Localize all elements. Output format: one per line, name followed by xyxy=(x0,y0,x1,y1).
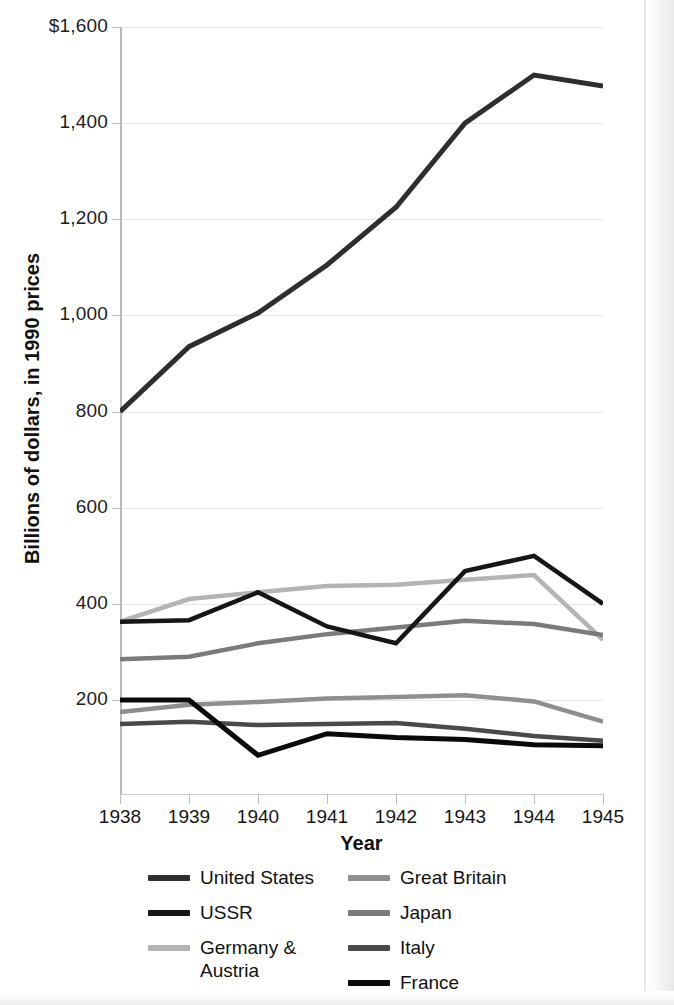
legend-item-label: United States xyxy=(200,866,314,889)
x-axis-tick-label: 1938 xyxy=(99,806,141,828)
series-line-france xyxy=(120,700,603,755)
x-axis-line xyxy=(120,794,603,795)
scan-edge-line xyxy=(644,0,646,1005)
x-axis-tick xyxy=(120,794,121,804)
x-axis-tick xyxy=(603,794,604,804)
x-axis-tick xyxy=(258,794,259,804)
x-axis-tick xyxy=(396,794,397,804)
plot-area xyxy=(120,27,603,794)
legend-item-label: USSR xyxy=(200,901,253,924)
y-axis-title: Billions of dollars, in 1990 prices xyxy=(21,149,44,669)
x-axis-title: Year xyxy=(120,832,603,855)
series-line-japan xyxy=(120,621,603,659)
x-axis-tick-label: 1945 xyxy=(582,806,624,828)
y-axis-tick xyxy=(112,604,120,605)
legend-item: United States xyxy=(148,866,348,892)
x-axis-tick-label: 1939 xyxy=(168,806,210,828)
x-axis-tick xyxy=(189,794,190,804)
y-axis-tick xyxy=(112,123,120,124)
legend-swatch-icon xyxy=(148,875,190,881)
y-axis-tick-label: 1,400 xyxy=(59,111,108,133)
x-axis-tick-label: 1941 xyxy=(306,806,348,828)
y-axis-tick xyxy=(112,412,120,413)
y-axis-tick-label: 200 xyxy=(76,688,108,710)
legend-item-label: Germany & Austria xyxy=(200,936,296,982)
x-axis-tick-label: 1943 xyxy=(444,806,486,828)
legend-swatch-icon xyxy=(348,910,390,916)
y-axis-tick xyxy=(112,508,120,509)
legend-column-left: United StatesUSSRGermany & Austria xyxy=(148,866,348,991)
legend-item: Germany & Austria xyxy=(148,936,348,982)
legend-item: Japan xyxy=(348,901,548,927)
x-axis-tick-label: 1940 xyxy=(237,806,279,828)
legend-item-label: Great Britain xyxy=(400,866,507,889)
x-axis-tick xyxy=(327,794,328,804)
legend-item: Great Britain xyxy=(348,866,548,892)
page-canvas: $1,6001,4001,2001,000800600400200 193819… xyxy=(0,0,674,1005)
x-axis-tick xyxy=(465,794,466,804)
chart-legend: United StatesUSSRGermany & Austria Great… xyxy=(120,866,540,991)
scan-bottom-edge xyxy=(0,991,674,1005)
legend-swatch-icon xyxy=(148,945,190,951)
legend-column-right: Great BritainJapanItalyFrance xyxy=(348,866,548,1005)
legend-swatch-icon xyxy=(348,875,390,881)
legend-item: USSR xyxy=(148,901,348,927)
legend-item: Italy xyxy=(348,936,548,962)
y-axis-tick xyxy=(112,700,120,701)
y-axis-tick-label: 1,000 xyxy=(59,303,108,325)
y-axis-tick-label: 800 xyxy=(76,400,108,422)
series-line-united-states xyxy=(120,75,603,412)
x-axis-tick-label: 1944 xyxy=(513,806,555,828)
series-line-great-britain xyxy=(120,695,603,721)
scan-edge-gradient xyxy=(644,0,674,1005)
legend-swatch-icon xyxy=(148,910,190,916)
legend-item-label: Japan xyxy=(400,901,452,924)
legend-swatch-icon xyxy=(348,945,390,951)
legend-item-label: Italy xyxy=(400,936,435,959)
x-axis-tick xyxy=(534,794,535,804)
y-axis-tick xyxy=(112,315,120,316)
line-chart: $1,6001,4001,2001,000800600400200 193819… xyxy=(0,0,646,860)
y-axis-tick xyxy=(112,219,120,220)
x-axis-tick-label: 1942 xyxy=(375,806,417,828)
y-axis-tick-label: 400 xyxy=(76,592,108,614)
y-axis-tick-labels: $1,6001,4001,2001,000800600400200 xyxy=(0,0,108,860)
y-axis-tick-label: 600 xyxy=(76,496,108,518)
y-axis-tick-label: 1,200 xyxy=(59,207,108,229)
y-axis-tick xyxy=(112,27,120,28)
y-axis-tick-label: $1,600 xyxy=(49,15,108,37)
legend-swatch-icon xyxy=(348,980,390,986)
